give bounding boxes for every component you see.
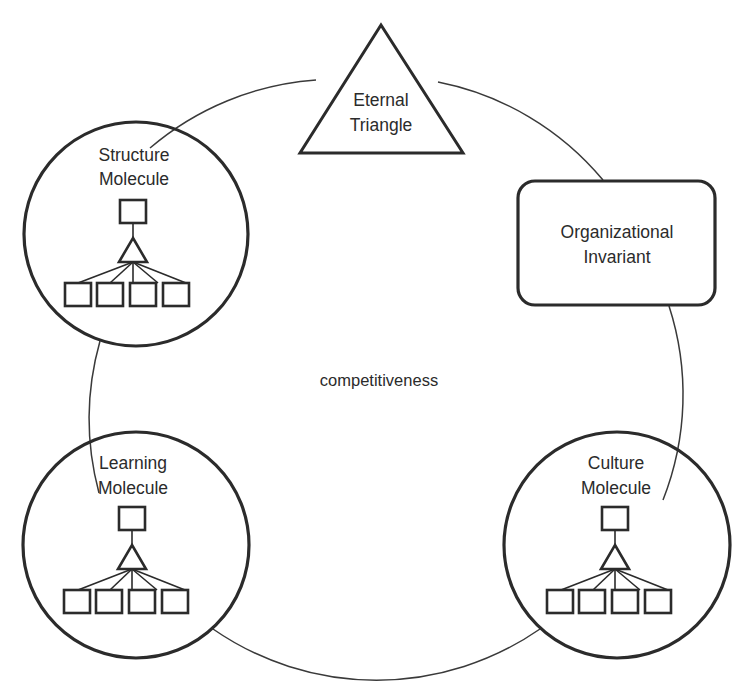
node-learning-molecule[interactable]: Learning Molecule [23, 432, 249, 658]
eternal-triangle-label-line2: Triangle [350, 115, 413, 135]
molecule-fan-link [133, 262, 158, 283]
diagram-svg: Eternal Triangle Structure Molecule [0, 0, 746, 685]
diagram-canvas: Eternal Triangle Structure Molecule [0, 0, 746, 685]
molecule-bottom-square [130, 283, 156, 306]
molecule-bottom-square [163, 283, 189, 306]
molecule-fan-link [615, 569, 640, 590]
molecule-bottom-square [162, 590, 188, 613]
molecule-fan-link [110, 569, 132, 590]
connector-invariant-to-culture [663, 306, 683, 500]
node-eternal-triangle[interactable]: Eternal Triangle [300, 25, 463, 153]
node-culture-molecule[interactable]: Culture Molecule [504, 432, 730, 658]
molecule-fan-link [110, 262, 133, 283]
molecule-bottom-square [97, 283, 123, 306]
molecule-triangle [119, 238, 147, 262]
learning-molecule-glyph [64, 507, 188, 613]
structure-molecule-label-line1: Structure [99, 145, 170, 165]
molecule-bottom-square [64, 590, 90, 613]
eternal-triangle-label-line1: Eternal [353, 90, 408, 110]
molecule-fan-link [78, 262, 133, 283]
culture-molecule-label-line1: Culture [588, 453, 644, 473]
molecule-triangle [601, 545, 629, 569]
molecule-bottom-square [129, 590, 155, 613]
molecule-bottom-square [65, 283, 91, 306]
molecule-triangle [118, 545, 146, 569]
connector-culture-to-learning [213, 629, 540, 680]
culture-molecule-glyph [547, 507, 671, 613]
molecule-fan-link [78, 569, 132, 590]
node-organizational-invariant[interactable]: Organizational Invariant [518, 181, 715, 305]
structure-molecule-glyph [65, 200, 189, 306]
organizational-invariant-label-line2: Invariant [583, 247, 650, 267]
organizational-invariant-label-line1: Organizational [561, 222, 674, 242]
connector-triangle-to-invariant [438, 82, 603, 180]
molecule-bottom-square [612, 590, 638, 613]
connector-structure-to-triangle [150, 80, 316, 148]
molecule-top-square [119, 507, 145, 530]
molecule-fan-link [133, 262, 186, 283]
molecule-bottom-square [579, 590, 605, 613]
node-structure-molecule[interactable]: Structure Molecule [24, 122, 248, 346]
molecule-top-square [120, 200, 146, 223]
molecule-fan-link [132, 569, 157, 590]
learning-molecule-label-line2: Molecule [98, 478, 168, 498]
structure-molecule-label-line2: Molecule [99, 169, 169, 189]
center-label-competitiveness: competitiveness [320, 371, 438, 389]
molecule-bottom-square [645, 590, 671, 613]
molecule-top-square [602, 507, 628, 530]
molecule-fan-link [593, 569, 615, 590]
culture-molecule-label-line2: Molecule [581, 478, 651, 498]
molecule-fan-link [615, 569, 668, 590]
organizational-invariant-box [518, 181, 715, 305]
learning-molecule-label-line1: Learning [99, 453, 167, 473]
molecule-fan-link [561, 569, 615, 590]
molecule-bottom-square [547, 590, 573, 613]
molecule-fan-link [132, 569, 185, 590]
molecule-bottom-square [96, 590, 122, 613]
